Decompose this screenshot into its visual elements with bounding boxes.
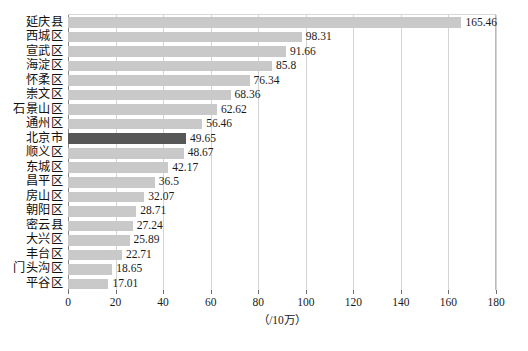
bar-row: 北京市49.65 [68, 131, 495, 146]
x-tick-label-140: 140 [392, 295, 409, 309]
bar [68, 104, 217, 115]
bar [68, 206, 136, 217]
x-tick-mark-180 [496, 290, 497, 294]
value-label: 165.46 [461, 15, 497, 31]
category-label: 平谷区 [26, 276, 64, 292]
x-tick-label-180: 180 [487, 295, 504, 309]
category-label: 房山区 [26, 189, 64, 205]
bar [68, 148, 184, 159]
x-tick-label-100: 100 [297, 295, 314, 309]
category-label: 朝阳区 [26, 203, 64, 219]
plot-area: 延庆县165.46西城区98.31宣武区91.66海淀区85.8怀柔区76.34… [68, 14, 496, 290]
bar [68, 162, 168, 173]
bar [68, 61, 272, 72]
category-label: 东城区 [26, 160, 64, 176]
value-label: 32.07 [144, 189, 174, 205]
bar-chart-figure: 延庆县165.46西城区98.31宣武区91.66海淀区85.8怀柔区76.34… [0, 0, 528, 351]
bar [68, 279, 108, 290]
gridline-180 [496, 15, 497, 290]
bar [68, 264, 112, 275]
x-tick-mark-0 [68, 290, 69, 294]
value-label: 22.71 [122, 247, 152, 263]
bar-row: 平谷区17.01 [68, 276, 495, 291]
x-tick-label-0: 0 [65, 295, 71, 309]
value-label: 68.36 [231, 87, 261, 103]
value-label: 42.17 [168, 160, 198, 176]
x-tick-mark-120 [353, 290, 354, 294]
bar-row: 朝阳区28.71 [68, 204, 495, 219]
bar-row: 大兴区25.89 [68, 233, 495, 248]
bar-rows: 延庆县165.46西城区98.31宣武区91.66海淀区85.8怀柔区76.34… [68, 15, 495, 290]
bar [68, 235, 130, 246]
category-label: 崇文区 [26, 87, 64, 103]
bar-row: 怀柔区76.34 [68, 73, 495, 88]
bar [68, 17, 461, 28]
value-label: 27.24 [133, 218, 163, 234]
category-label: 延庆县 [26, 15, 64, 31]
category-label: 怀柔区 [26, 73, 64, 89]
value-label: 56.46 [202, 116, 232, 132]
x-tick-label-80: 80 [252, 295, 264, 309]
bar-row: 昌平区36.5 [68, 175, 495, 190]
category-label: 石景山区 [13, 102, 63, 118]
category-label: 海淀区 [26, 58, 64, 74]
value-label: 49.65 [186, 131, 216, 147]
bar-highlighted [68, 133, 186, 144]
bar [68, 46, 286, 57]
x-tick-mark-40 [163, 290, 164, 294]
value-label: 76.34 [250, 73, 280, 89]
bar [68, 75, 250, 86]
bar-row: 宣武区91.66 [68, 44, 495, 59]
category-label: 西城区 [26, 29, 64, 45]
bar [68, 32, 302, 43]
bar-row: 顺义区48.67 [68, 146, 495, 161]
bar [68, 250, 122, 261]
x-axis-title: （/10万） [68, 311, 496, 327]
x-tick-label-40: 40 [157, 295, 169, 309]
x-tick-mark-100 [306, 290, 307, 294]
category-label: 北京市 [26, 131, 64, 147]
x-axis: 020406080100120140160180 [68, 290, 496, 312]
category-label: 昌平区 [26, 174, 64, 190]
bar-row: 丰台区22.71 [68, 247, 495, 262]
bar-row: 崇文区68.36 [68, 88, 495, 103]
bar-row: 西城区98.31 [68, 30, 495, 45]
category-label: 门头沟区 [13, 261, 63, 277]
bar [68, 221, 133, 232]
category-label: 宣武区 [26, 44, 64, 60]
bar [68, 177, 155, 188]
x-tick-label-120: 120 [345, 295, 362, 309]
value-label: 25.89 [130, 232, 160, 248]
category-label: 密云县 [26, 218, 64, 234]
x-tick-label-60: 60 [205, 295, 217, 309]
value-label: 18.65 [112, 261, 142, 277]
bar-row: 房山区32.07 [68, 189, 495, 204]
value-label: 62.62 [217, 102, 247, 118]
bar [68, 192, 144, 203]
value-label: 98.31 [302, 29, 332, 45]
x-tick-mark-80 [258, 290, 259, 294]
bar [68, 119, 202, 130]
value-label: 36.5 [155, 174, 179, 190]
bar-row: 东城区42.17 [68, 160, 495, 175]
bar-row: 延庆县165.46 [68, 15, 495, 30]
value-label: 85.8 [272, 58, 296, 74]
category-label: 大兴区 [26, 232, 64, 248]
category-label: 通州区 [26, 116, 64, 132]
value-label: 91.66 [286, 44, 316, 60]
x-tick-mark-160 [448, 290, 449, 294]
x-tick-mark-20 [116, 290, 117, 294]
x-tick-label-160: 160 [440, 295, 457, 309]
x-tick-label-20: 20 [110, 295, 122, 309]
bar-row: 通州区56.46 [68, 117, 495, 132]
bar-row: 石景山区62.62 [68, 102, 495, 117]
bar-row: 门头沟区18.65 [68, 262, 495, 277]
x-tick-mark-140 [401, 290, 402, 294]
bar-row: 密云县27.24 [68, 218, 495, 233]
value-label: 48.67 [184, 145, 214, 161]
bar [68, 90, 231, 101]
bar-row: 海淀区85.8 [68, 59, 495, 74]
value-label: 28.71 [136, 203, 166, 219]
x-tick-mark-60 [211, 290, 212, 294]
category-label: 顺义区 [26, 145, 64, 161]
